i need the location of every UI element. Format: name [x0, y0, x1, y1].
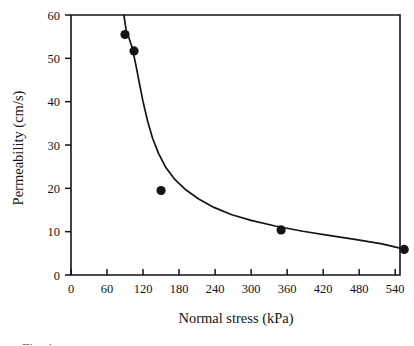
x-axis-ticks: [71, 269, 395, 275]
y-tick-label: 50: [48, 52, 61, 66]
x-tick-label: 480: [350, 282, 369, 296]
y-tick-label: 40: [48, 95, 61, 109]
figure-caption-sliver: Fig. 4 ...: [22, 341, 352, 345]
y-axis-tick-labels: 0102030405060: [48, 9, 61, 283]
fitted-curve: [124, 15, 400, 248]
y-tick-label: 0: [54, 269, 60, 283]
x-tick-label: 360: [278, 282, 297, 296]
data-point-marker: [156, 186, 165, 195]
x-axis-tick-labels: 060120180240300360420480540: [68, 282, 405, 296]
y-tick-label: 10: [48, 225, 61, 239]
x-tick-label: 60: [101, 282, 114, 296]
data-point-marker: [120, 30, 129, 39]
y-tick-label: 20: [48, 182, 61, 196]
data-point-marker: [277, 225, 286, 234]
data-point-marker: [129, 46, 138, 55]
plot-frame: [71, 15, 400, 275]
y-axis-title: Permeability (cm/s): [10, 90, 27, 205]
x-tick-label: 180: [170, 282, 189, 296]
x-tick-label: 0: [68, 282, 74, 296]
x-tick-label: 540: [386, 282, 405, 296]
y-axis-ticks: [65, 15, 71, 275]
x-tick-label: 420: [314, 282, 333, 296]
x-tick-label: 120: [134, 282, 153, 296]
data-points: [120, 30, 408, 254]
data-point-marker: [400, 245, 409, 254]
x-axis-title: Normal stress (kPa): [178, 310, 293, 327]
y-tick-label: 60: [48, 9, 61, 23]
figure-container: 060120180240300360420480540 010203040506…: [0, 0, 414, 346]
x-tick-label: 300: [242, 282, 261, 296]
x-tick-label: 240: [206, 282, 225, 296]
permeability-vs-normal-stress-chart: 060120180240300360420480540 010203040506…: [0, 0, 414, 346]
y-tick-label: 30: [48, 139, 61, 153]
